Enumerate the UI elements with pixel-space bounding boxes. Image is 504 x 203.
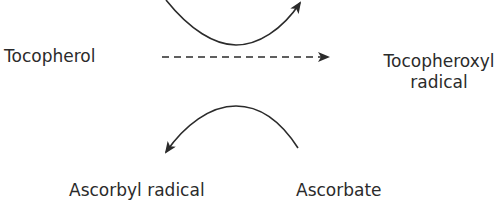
top-curved-arrow <box>166 0 300 45</box>
tocopheroxyl-radical-label: Tocopheroxyl radical <box>374 51 504 92</box>
ascorbate-label: Ascorbate <box>296 180 382 200</box>
tocopheroxyl-line2: radical <box>374 72 504 92</box>
tocopherol-label: Tocopherol <box>4 46 95 66</box>
bottom-curved-arrow <box>166 106 298 152</box>
diagram-arrows <box>0 0 504 203</box>
tocopheroxyl-line1: Tocopheroxyl <box>374 51 504 71</box>
ascorbyl-radical-label: Ascorbyl radical <box>69 180 205 200</box>
